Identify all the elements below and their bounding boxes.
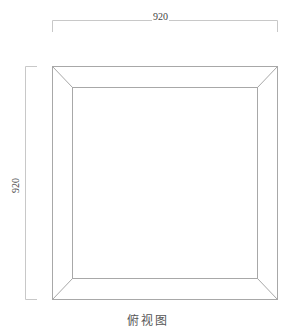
view-caption: 俯视图: [0, 311, 295, 328]
frame-outline: [53, 67, 278, 300]
width-dimension: [53, 21, 278, 33]
top-view-drawing: [0, 0, 295, 334]
width-dimension-label: 920: [152, 11, 169, 22]
height-dimension-label: 920: [10, 178, 21, 193]
height-dimension: [26, 67, 38, 300]
